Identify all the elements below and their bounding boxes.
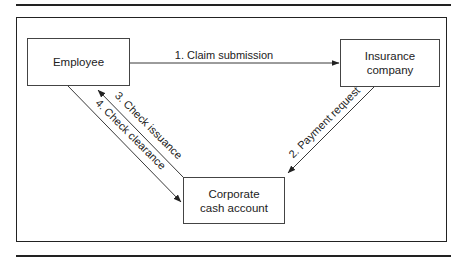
edge-label: 2. Payment request <box>286 84 362 160</box>
edge-check-issuance: 3. Check issuance <box>98 89 185 177</box>
node-label-line-2: cash account <box>200 201 268 215</box>
edge-claim-submission: 1. Claim submission <box>130 49 339 63</box>
node-label-line-2: company <box>367 63 414 77</box>
node-label-line-1: Insurance <box>365 49 416 63</box>
bottom-rule <box>16 255 451 257</box>
edge-label: 1. Claim submission <box>175 49 273 61</box>
node-insurance-company: Insurance company <box>340 39 440 87</box>
node-label-line-1: Corporate <box>208 187 259 201</box>
node-label: Employee <box>53 55 104 69</box>
node-corporate-cash-account: Corporate cash account <box>183 177 285 224</box>
arrow-down-left-icon <box>288 87 374 173</box>
node-employee: Employee <box>27 38 130 86</box>
edge-payment-request: 2. Payment request <box>286 84 374 173</box>
arrow-up-left-icon <box>98 90 183 177</box>
